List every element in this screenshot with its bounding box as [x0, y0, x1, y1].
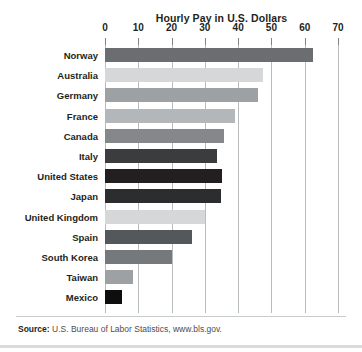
x-axis-tick-40	[238, 38, 239, 45]
bar-united-states	[105, 169, 222, 183]
bar-south-korea	[105, 250, 172, 264]
bar-row: United States	[105, 169, 338, 183]
x-axis-tick-60	[305, 38, 306, 45]
bar-australia	[105, 68, 263, 82]
x-axis-tick-label-0: 0	[102, 22, 108, 33]
source-text: U.S. Bureau of Labor Statistics, www.bls…	[52, 324, 222, 334]
bar-norway	[105, 48, 313, 62]
bar-row: Spain	[105, 230, 338, 244]
category-label-mexico: Mexico	[66, 292, 98, 303]
bar-france	[105, 109, 235, 123]
bar-row: Japan	[105, 189, 338, 203]
plot-area: 010203040506070NorwayAustraliaGermanyFra…	[105, 45, 338, 313]
bar-row: Mexico	[105, 290, 338, 304]
category-label-norway: Norway	[64, 50, 98, 61]
bar-row: Germany	[105, 88, 338, 102]
x-axis-tick-label-10: 10	[133, 22, 144, 33]
bar-row: France	[105, 109, 338, 123]
category-label-spain: Spain	[72, 231, 98, 242]
category-label-japan: Japan	[71, 191, 98, 202]
x-axis-tick-30	[205, 38, 206, 45]
x-axis-tick-10	[138, 38, 139, 45]
x-axis-tick-70	[338, 38, 339, 45]
bar-canada	[105, 129, 224, 143]
category-label-united-kingdom: United Kingdom	[25, 211, 98, 222]
category-label-germany: Germany	[57, 90, 98, 101]
bar-japan	[105, 189, 221, 203]
bar-mexico	[105, 290, 122, 304]
bar-row: South Korea	[105, 250, 338, 264]
bar-row: Canada	[105, 129, 338, 143]
x-axis-tick-50	[271, 38, 272, 45]
footer-divider-top	[16, 316, 346, 317]
bar-row: Italy	[105, 149, 338, 163]
footer-divider-bottom	[0, 345, 362, 348]
bar-row: Australia	[105, 68, 338, 82]
x-axis-tick-label-70: 70	[332, 22, 343, 33]
category-label-france: France	[67, 110, 98, 121]
x-axis-tick-0	[105, 38, 106, 45]
bar-germany	[105, 88, 258, 102]
category-label-italy: Italy	[79, 151, 98, 162]
category-label-canada: Canada	[64, 130, 98, 141]
bar-spain	[105, 230, 192, 244]
x-axis-tick-label-40: 40	[233, 22, 244, 33]
x-axis-tick-label-50: 50	[266, 22, 277, 33]
category-label-australia: Australia	[57, 70, 98, 81]
category-label-south-korea: South Korea	[42, 252, 98, 263]
category-label-taiwan: Taiwan	[67, 272, 99, 283]
gridline-70	[338, 45, 339, 313]
bar-united-kingdom	[105, 210, 205, 224]
source-note: Source: U.S. Bureau of Labor Statistics,…	[18, 324, 222, 334]
bar-chart-figure: Hourly Pay in U.S. Dollars 0102030405060…	[0, 0, 362, 352]
source-label: Source:	[18, 324, 50, 334]
x-axis-tick-label-30: 30	[199, 22, 210, 33]
category-label-united-states: United States	[37, 171, 98, 182]
bar-taiwan	[105, 270, 133, 284]
bar-row: United Kingdom	[105, 210, 338, 224]
bar-row: Norway	[105, 48, 338, 62]
x-axis-tick-20	[172, 38, 173, 45]
bar-italy	[105, 149, 217, 163]
x-axis-tick-label-20: 20	[166, 22, 177, 33]
x-axis-tick-label-60: 60	[299, 22, 310, 33]
bar-row: Taiwan	[105, 270, 338, 284]
